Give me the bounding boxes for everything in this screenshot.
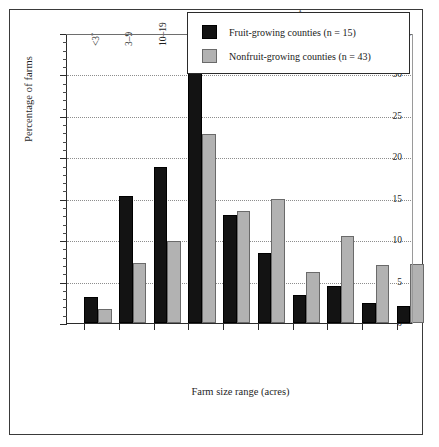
bar [119,196,133,323]
y-minor-tick [63,175,67,176]
y-minor-tick [63,191,67,192]
y-minor-tick [63,299,67,300]
x-axis-title: Farm size range (acres) [67,386,414,397]
y-minor-tick [63,274,67,275]
y-minor-tick [63,125,67,126]
y-tick-label: 15 [356,195,402,205]
y-minor-tick [63,42,67,43]
y-tick [60,75,67,76]
bar [154,167,168,323]
y-minor-tick [63,150,67,151]
legend-swatch-fruit-growing [202,25,217,39]
y-tick [60,158,67,159]
plot-right-border [412,34,413,324]
y-minor-tick [63,100,67,101]
legend-swatch-nonfruit-growing [202,49,217,63]
y-minor-tick [63,167,67,168]
bar [293,295,307,323]
x-tick [327,323,328,330]
y-tick [60,324,67,325]
y-minor-tick [63,183,67,184]
bar [327,286,341,323]
x-tick [293,323,294,330]
y-minor-tick [63,291,67,292]
bar [202,134,216,323]
y-minor-tick [63,216,67,217]
y-minor-tick [63,266,67,267]
bar [98,309,112,323]
bar [133,263,147,323]
x-tick [258,323,259,330]
y-tick-label: 20 [356,153,402,163]
y-tick [60,200,67,201]
x-tick [188,323,189,330]
y-minor-tick [63,316,67,317]
legend-label-fruit-growing: Fruit-growing counties (n = 15) [229,27,356,38]
y-minor-tick [63,59,67,60]
bar [84,297,98,323]
y-minor-tick [63,233,67,234]
bar [341,236,355,323]
legend-item: Fruit-growing counties (n = 15) [202,20,401,44]
y-minor-tick [63,249,67,250]
bar [258,253,272,323]
bar [397,306,411,323]
x-tick [119,323,120,330]
y-minor-tick [63,109,67,110]
y-minor-tick [63,67,67,68]
y-tick [60,117,67,118]
y-minor-tick [63,51,67,52]
bar [237,211,251,323]
bar [271,199,285,323]
x-tick [84,323,85,330]
chart-legend: Fruit-growing counties (n = 15) Nonfruit… [187,12,410,74]
y-tick [60,241,67,242]
bar [188,72,202,323]
y-tick-label: 25 [356,112,402,122]
y-minor-tick [63,208,67,209]
y-minor-tick [63,258,67,259]
legend-item: Nonfruit-growing counties (n = 43) [202,44,401,68]
y-minor-tick [63,133,67,134]
x-tick [223,323,224,330]
y-minor-tick [63,84,67,85]
figure-frame: Percentage of farms Farm size range (acr… [9,9,423,435]
x-tick [362,323,363,330]
bar [362,303,376,323]
x-tick [154,323,155,330]
bar [376,265,390,323]
y-minor-tick [63,142,67,143]
bar [167,241,181,323]
x-tick [397,323,398,330]
y-axis-title: Percentage of farms [23,56,34,142]
y-tick-label: 10 [356,236,402,246]
plot-area: Percentage of farms Farm size range (acr… [66,34,413,324]
y-minor-tick [63,307,67,308]
y-tick [60,283,67,284]
y-minor-tick [63,225,67,226]
legend-label-nonfruit-growing: Nonfruit-growing counties (n = 43) [229,51,371,62]
bar [223,215,237,323]
bar [306,272,320,323]
y-minor-tick [63,92,67,93]
